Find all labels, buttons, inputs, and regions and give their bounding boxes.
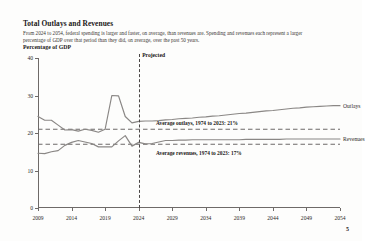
reference-line-label: Average outlays, 1974 to 2023: 21%: [156, 120, 238, 126]
y-tick-label: 0: [30, 205, 33, 211]
chart-plot-area: 010203040 200920142019202420292034203920…: [38, 58, 340, 208]
data-series-layer: [38, 58, 340, 208]
x-tick-mark: [72, 208, 73, 211]
reference-line-label: Average revenues, 1974 to 2023: 17%: [156, 150, 242, 156]
x-tick-mark: [38, 208, 39, 211]
projected-label: Projected: [139, 52, 165, 58]
projection-divider-line: [139, 54, 140, 208]
x-tick-label: 2009: [32, 215, 43, 221]
x-tick-mark: [139, 208, 140, 211]
x-tick-mark: [273, 208, 274, 211]
series-line-outlays: [38, 96, 340, 133]
x-tick-label: 2044: [267, 215, 278, 221]
series-label-revenues: Revenues: [340, 136, 365, 142]
page-number: 5: [346, 226, 349, 232]
series-label-outlays: Outlays: [340, 103, 360, 109]
x-tick-label: 2019: [100, 215, 111, 221]
x-tick-label: 2039: [234, 215, 245, 221]
x-tick-mark: [340, 208, 341, 211]
x-tick-mark: [239, 208, 240, 211]
y-axis-unit-label: Percentage of GDP: [23, 44, 71, 50]
y-tick-label: 20: [27, 130, 33, 136]
page-title: Total Outlays and Revenues: [23, 19, 341, 28]
x-tick-mark: [306, 208, 307, 211]
x-tick-mark: [172, 208, 173, 211]
y-tick-label: 40: [27, 55, 33, 61]
chart-subtitle: From 2024 to 2054, federal spending is l…: [23, 30, 325, 42]
x-tick-label: 2054: [334, 215, 345, 221]
x-tick-label: 2014: [66, 215, 77, 221]
x-tick-mark: [206, 208, 207, 211]
y-tick-label: 30: [27, 93, 33, 99]
y-tick-label: 10: [27, 168, 33, 174]
x-tick-label: 2029: [167, 215, 178, 221]
x-tick-label: 2024: [133, 215, 144, 221]
chart-header: Total Outlays and Revenues From 2024 to …: [23, 19, 341, 43]
x-tick-label: 2034: [200, 215, 211, 221]
x-tick-label: 2049: [301, 215, 312, 221]
x-tick-mark: [105, 208, 106, 211]
